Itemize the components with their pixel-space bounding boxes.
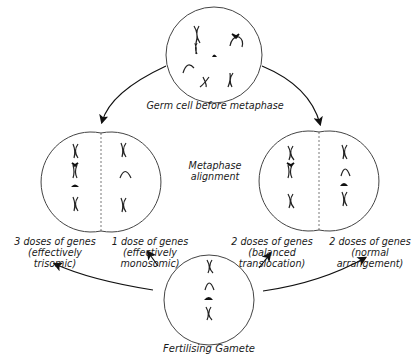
trisomic-label: 3 doses of genes (effectively trisomic) — [5, 236, 105, 269]
balanced-label: 2 doses of genes (balanced translocation… — [224, 236, 320, 269]
monosomic-line2: (effectively — [106, 247, 194, 258]
monosomic-line1: 1 dose of genes — [106, 236, 194, 247]
balanced-line2: (balanced — [224, 247, 320, 258]
trisomic-line1: 3 doses of genes — [5, 236, 105, 247]
arrow-to-right-division — [262, 66, 320, 124]
normal-line2: (normal — [322, 247, 418, 258]
monosomic-line3: monosomic) — [106, 258, 194, 269]
arrow-to-left-division — [102, 66, 166, 122]
germ-cell-label: Germ cell before metaphase — [140, 100, 290, 111]
normal-line3: arrangement) — [322, 258, 418, 269]
left-division — [41, 132, 161, 232]
normal-line1: 2 doses of genes — [322, 236, 418, 247]
trisomic-line3: trisomic) — [5, 258, 105, 269]
metaphase-line2: alignment — [185, 171, 245, 182]
monosomic-label: 1 dose of genes (effectively monosomic) — [106, 236, 194, 269]
trisomic-line2: (effectively — [5, 247, 105, 258]
metaphase-label: Metaphase alignment — [185, 160, 245, 182]
metaphase-line1: Metaphase — [185, 160, 245, 171]
balanced-line3: translocation) — [224, 258, 320, 269]
right-division — [259, 131, 379, 231]
balanced-line1: 2 doses of genes — [224, 236, 320, 247]
normal-label: 2 doses of genes (normal arrangement) — [322, 236, 418, 269]
germ-cell — [166, 7, 262, 103]
gamete-label: Fertilising Gamete — [149, 343, 269, 354]
